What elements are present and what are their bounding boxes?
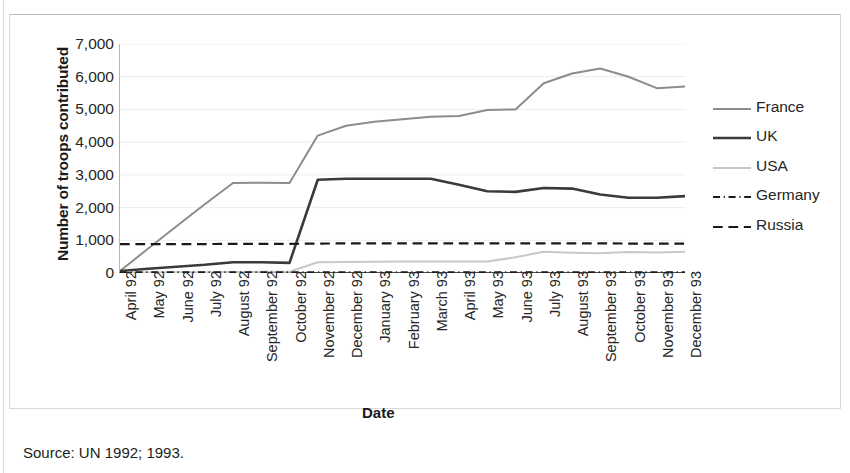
legend-label: France: [756, 98, 804, 116]
x-tick-label: April 92: [124, 271, 139, 401]
x-tick-label: November 92: [322, 271, 337, 401]
y-axis-tick-labels: 7,0006,0005,0004,0003,0002,0001,0000: [44, 0, 114, 473]
x-tick-label: September 93: [604, 271, 619, 401]
x-tick-label: December 93: [689, 271, 704, 401]
x-tick-label: March 93: [435, 271, 450, 401]
legend-label: Russia: [756, 216, 803, 234]
x-tick-label: February 93: [407, 271, 422, 401]
y-tick-label: 7,000: [46, 36, 114, 52]
y-tick-label: 2,000: [46, 200, 114, 216]
x-tick-label: October 93: [633, 271, 648, 401]
x-tick-label: December 92: [350, 271, 365, 401]
y-tick-label: 5,000: [46, 101, 114, 117]
series-line-uk: [120, 179, 685, 271]
x-tick-label: June 93: [520, 271, 535, 401]
x-tick-label: September 92: [265, 271, 280, 401]
legend-item-france[interactable]: France: [712, 92, 844, 122]
x-tick-label: January 93: [378, 271, 393, 401]
y-tick-label: 4,000: [46, 134, 114, 150]
y-tick-label: 6,000: [46, 69, 114, 85]
legend-item-russia[interactable]: Russia: [712, 210, 844, 240]
plot-svg: [120, 44, 686, 273]
x-tick-label: July 93: [548, 271, 563, 401]
x-tick-label: October 92: [294, 271, 309, 401]
series-line-usa: [120, 252, 685, 273]
x-tick-label: May 93: [491, 271, 506, 401]
legend-swatch-icon: [712, 101, 752, 113]
legend-swatch-icon: [712, 219, 752, 231]
legend-swatch-icon: [712, 130, 752, 142]
y-tick-label: 3,000: [46, 167, 114, 183]
legend-item-germany[interactable]: Germany: [712, 181, 844, 211]
legend-item-uk[interactable]: UK: [712, 122, 844, 152]
y-tick-label: 0: [46, 265, 114, 281]
legend-label: UK: [756, 127, 778, 145]
line-chart: Number of troops contributed 7,0006,0005…: [0, 0, 850, 473]
x-tick-label: April 93: [463, 271, 478, 401]
x-tick-label: June 92: [181, 271, 196, 401]
x-tick-label: August 93: [576, 271, 591, 401]
x-tick-label: August 92: [237, 271, 252, 401]
x-tick-label: November 93: [661, 271, 676, 401]
series-line-russia: [120, 243, 685, 244]
chart-legend: FranceUKUSAGermanyRussia: [712, 92, 844, 240]
x-axis-title: Date: [362, 404, 395, 421]
plot-area: [119, 44, 685, 273]
legend-swatch-icon: [712, 189, 752, 201]
legend-label: Germany: [756, 186, 820, 204]
x-tick-label: May 92: [152, 271, 167, 401]
legend-item-usa[interactable]: USA: [712, 151, 844, 181]
legend-swatch-icon: [712, 160, 752, 172]
x-axis-tick-labels: April 92May 92June 92July 92August 92Sep…: [119, 273, 685, 403]
source-caption: Source: UN 1992; 1993.: [23, 444, 184, 461]
x-tick-label: July 92: [209, 271, 224, 401]
y-tick-label: 1,000: [46, 232, 114, 248]
legend-label: USA: [756, 157, 788, 175]
